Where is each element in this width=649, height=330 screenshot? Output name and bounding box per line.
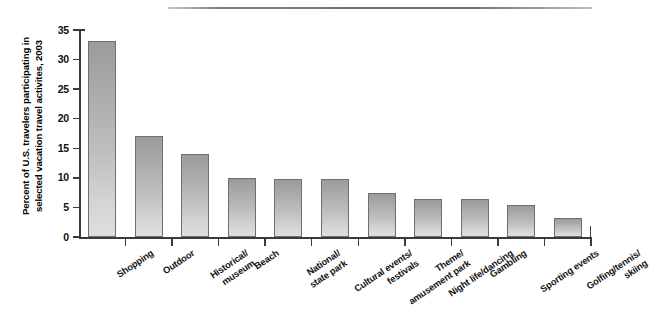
x-axis-category-label: Beach <box>253 248 282 273</box>
x-axis-category-label: Outdoor <box>161 248 197 277</box>
x-axis-category-label: Shopping <box>115 248 156 281</box>
x-axis-category-label: Historical/ museum <box>209 248 258 291</box>
x-axis-category-label: National/ state park <box>302 248 350 291</box>
